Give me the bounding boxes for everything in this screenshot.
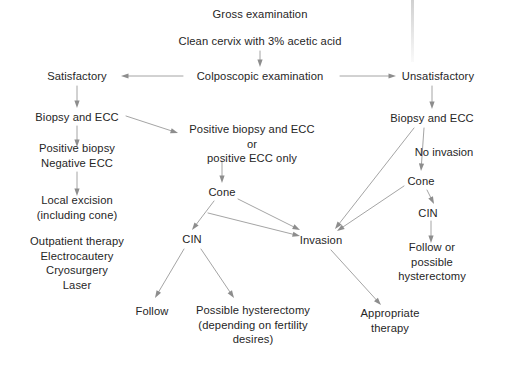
- arrow-biopsyright-to-invasion: [335, 128, 414, 229]
- node-cone-right: Cone: [407, 174, 434, 189]
- flowchart-canvas: Gross examinationClean cervix with 3% ac…: [0, 0, 517, 367]
- node-satisfactory: Satisfactory: [47, 69, 107, 84]
- arrow-colposcopic-to-satisfactory: [121, 73, 183, 78]
- node-possible-hysterectomy: Possible hysterectomy (depending on fert…: [196, 303, 310, 347]
- arrow-cone-to-cin: [192, 201, 214, 230]
- arrow-satisfactory-to-biopsy: [74, 86, 79, 108]
- node-cone-middle: Cone: [208, 185, 235, 200]
- arrow-unsatisfactory-to-biopsy: [429, 86, 434, 109]
- node-cin-middle: CIN: [182, 232, 202, 247]
- node-positive-biopsy-ecc: Positive biopsy and ECC or positive ECC …: [189, 122, 314, 166]
- arrow-biopsyleft-to-positiveecc: [126, 116, 178, 133]
- arrow-colposcopic-to-unsatisfactory: [340, 73, 396, 78]
- artifact-scan-streak-top: [411, 0, 414, 62]
- node-gross-examination: Gross examination: [213, 7, 308, 22]
- node-biopsy-ecc-left: Biopsy and ECC: [35, 110, 118, 125]
- arrow-cin-to-follow: [155, 249, 184, 298]
- node-follow-or-hysterectomy: Follow or possible hysterectomy: [398, 240, 466, 284]
- node-outpatient-therapy: Outpatient therapy Electrocautery Cryosu…: [30, 234, 124, 292]
- node-colposcopic-examination: Colposcopic examination: [197, 69, 324, 84]
- arrow-cin-to-hysterectomy: [201, 249, 234, 298]
- node-clean-cervix: Clean cervix with 3% acetic acid: [179, 34, 342, 49]
- node-follow: Follow: [136, 304, 169, 319]
- arrow-cone-to-invasion: [238, 199, 300, 230]
- node-positive-negative-ecc: Positive biopsy Negative ECC: [39, 141, 115, 170]
- node-biopsy-ecc-right: Biopsy and ECC: [390, 111, 473, 126]
- node-invasion: Invasion: [300, 233, 342, 248]
- edge-label-no-invasion: No invasion: [415, 145, 473, 160]
- arrow-positive-to-excision: [74, 172, 79, 196]
- arrow-coneright-to-invasion: [337, 186, 404, 231]
- arrow-clean-to-colposcopic: [257, 51, 262, 67]
- arrow-coneright-to-cin: [427, 190, 434, 204]
- arrow-invasion-to-therapy: [331, 250, 381, 305]
- node-local-excision: Local excision (including cone): [37, 193, 118, 222]
- node-cin-right: CIN: [418, 206, 438, 221]
- arrow-excision-area-to-invasion: [208, 213, 300, 237]
- node-appropriate-therapy: Appropriate therapy: [361, 306, 420, 335]
- node-unsatisfactory: Unsatisfactory: [402, 69, 474, 84]
